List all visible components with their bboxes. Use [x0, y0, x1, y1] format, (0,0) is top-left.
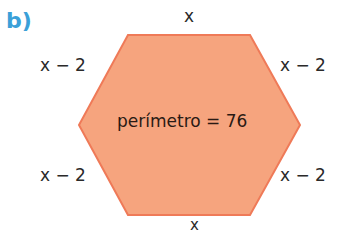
side-label-bottom-left: x − 2 [40, 167, 86, 184]
side-label-top: x [184, 8, 194, 25]
side-label-bottom-right: x − 2 [280, 167, 326, 184]
side-label-top-right: x − 2 [280, 57, 326, 74]
perimeter-text: perímetro = 76 [117, 113, 247, 130]
side-label-top-left: x − 2 [40, 57, 86, 74]
side-label-bottom: x [190, 218, 199, 233]
